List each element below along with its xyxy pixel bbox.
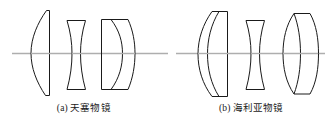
lens-a3-doublet-outline [102,20,136,90]
lens-b2-biconcave [246,21,265,90]
panel-b-optics [176,12,325,97]
caption-b-title: 海利亚物镜 [231,102,284,113]
caption-a-title: 天塞物镜 [68,102,111,113]
caption-a-label: (a) [57,103,68,113]
caption-b-label: (b) [219,103,231,113]
caption-panel-b: (b)海利亚物镜 [168,99,335,117]
lens-a2-biconcave [67,21,86,90]
figure-container: (a)天塞物镜 (b)海利亚物镜 [0,0,335,123]
panel-a-optics [12,11,168,96]
caption-panel-a: (a)天塞物镜 [0,99,168,117]
caption-row: (a)天塞物镜 (b)海利亚物镜 [0,99,335,117]
